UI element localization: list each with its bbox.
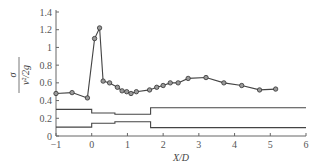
series-line xyxy=(56,108,306,115)
series-upper-boundary xyxy=(56,108,306,115)
data-point-marker xyxy=(204,75,208,79)
data-point-marker xyxy=(107,81,111,85)
x-tick-label: 2 xyxy=(161,139,166,150)
data-point-marker xyxy=(257,88,261,92)
y-tick-label: 0.8 xyxy=(40,60,53,71)
series-line xyxy=(56,122,306,128)
series-layer xyxy=(54,26,306,128)
data-point-marker xyxy=(115,85,119,89)
data-point-marker xyxy=(129,91,133,95)
data-point-marker xyxy=(222,81,226,85)
x-tick-label: −1 xyxy=(51,139,62,150)
x-tick-label: 1 xyxy=(125,139,130,150)
data-point-marker xyxy=(54,91,58,95)
y-tick-label: 0.4 xyxy=(40,95,53,106)
x-tick-label: 0 xyxy=(89,139,94,150)
data-point-marker xyxy=(161,83,165,87)
y-axis-label-numerator: σ xyxy=(7,71,18,77)
data-point-marker xyxy=(70,90,74,94)
data-point-marker xyxy=(176,81,180,85)
x-axis-label: X/D xyxy=(172,152,190,163)
data-point-marker xyxy=(97,26,101,30)
y-tick-label: 1 xyxy=(47,42,52,53)
data-point-marker xyxy=(240,83,244,87)
y-axis-label-denominator: v²/2g xyxy=(20,65,31,85)
data-point-marker xyxy=(101,79,105,83)
series-measured xyxy=(54,26,278,100)
chart-canvas: 00.20.40.60.811.21.4−10123456 X/D σ v²/2… xyxy=(0,0,318,167)
series-lower-boundary xyxy=(56,122,306,128)
y-tick-label: 1.2 xyxy=(40,24,53,35)
data-point-marker xyxy=(186,76,190,80)
x-tick-label: 4 xyxy=(232,139,237,150)
axes: 00.20.40.60.811.21.4−10123456 xyxy=(40,7,309,151)
data-point-marker xyxy=(134,90,138,94)
data-point-marker xyxy=(92,36,96,40)
x-tick-label: 3 xyxy=(196,139,201,150)
data-point-marker xyxy=(155,85,159,89)
data-point-marker xyxy=(125,90,129,94)
x-tick-label: 6 xyxy=(304,139,309,150)
y-axis-label: σ v²/2g xyxy=(7,57,31,93)
data-point-marker xyxy=(120,89,124,93)
y-tick-label: 0.6 xyxy=(40,77,53,88)
data-point-marker xyxy=(85,96,89,100)
x-tick-label: 5 xyxy=(268,139,273,150)
data-point-marker xyxy=(147,88,151,92)
y-tick-label: 1.4 xyxy=(40,7,53,18)
data-point-marker xyxy=(273,87,277,91)
y-tick-label: 0.2 xyxy=(40,113,53,124)
data-point-marker xyxy=(168,81,172,85)
